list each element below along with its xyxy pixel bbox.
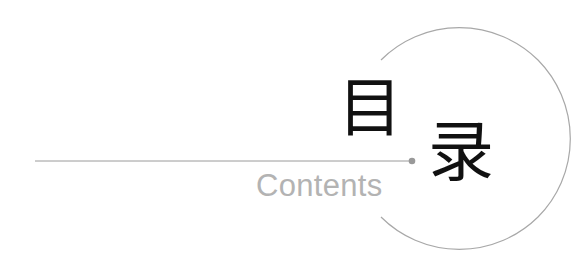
title-char-mu: 目: [338, 76, 402, 140]
decoration-graphics: [0, 0, 587, 260]
title-char-lu: 录: [428, 120, 494, 186]
contents-title-slide: 目 录 Contents: [0, 0, 587, 260]
divider-end-dot: [409, 158, 416, 165]
subtitle-contents: Contents: [256, 170, 382, 201]
